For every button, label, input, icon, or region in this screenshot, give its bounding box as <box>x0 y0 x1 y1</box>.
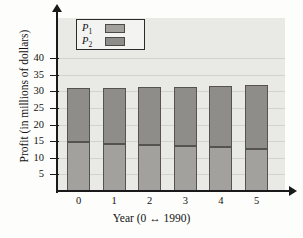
bar-group <box>174 18 197 191</box>
x-axis-title: Year (0 ↔ 1990) <box>0 212 303 224</box>
y-tick-mark <box>50 158 59 159</box>
bar-segment-p2 <box>138 87 161 144</box>
legend-label-p1: P1 <box>82 22 92 36</box>
bar-segment-p1 <box>138 145 161 191</box>
y-tick-mark <box>50 174 59 175</box>
legend-swatch-p2 <box>105 37 125 46</box>
legend-item-p1: P1 <box>82 23 142 34</box>
bar-group <box>245 18 268 191</box>
y-tick-mark <box>50 75 59 76</box>
y-tick-mark <box>50 108 59 109</box>
y-axis-title: Profit (in millions of dollars) <box>18 0 30 196</box>
x-tick-label: 0 <box>67 195 91 206</box>
bar-segment-p1 <box>245 149 268 191</box>
x-tick-label: 5 <box>245 195 269 206</box>
legend-swatch-p1 <box>105 24 125 33</box>
bar-group <box>209 18 232 191</box>
stacked-bar-chart: 510152025303540 012345 P1 P2 Year (0 ↔ 1… <box>0 0 303 238</box>
bar-segment-p1 <box>209 147 232 191</box>
bar-segment-p2 <box>245 85 268 148</box>
bar-segment-p1 <box>103 144 126 191</box>
bar-segment-p2 <box>67 88 90 142</box>
bar-segment-p1 <box>67 142 90 191</box>
legend-item-p2: P2 <box>82 36 142 47</box>
y-tick-mark <box>50 58 59 59</box>
bar-segment-p1 <box>174 146 197 191</box>
bar-segment-p2 <box>174 87 197 146</box>
legend-label-p2: P2 <box>82 35 92 49</box>
x-axis-arrow-icon <box>289 186 297 196</box>
x-tick-label: 3 <box>173 195 197 206</box>
bar-segment-p2 <box>103 88 126 144</box>
y-tick-mark <box>50 125 59 126</box>
x-axis-line <box>56 190 294 192</box>
x-tick-label: 4 <box>209 195 233 206</box>
bar-segment-p2 <box>209 86 232 147</box>
chart-legend: P1 P2 <box>76 19 145 50</box>
y-tick-mark <box>50 91 59 92</box>
y-axis-arrow-icon <box>52 4 62 12</box>
y-tick-mark <box>50 141 59 142</box>
x-tick-label: 2 <box>138 195 162 206</box>
x-tick-label: 1 <box>102 195 126 206</box>
y-axis-line <box>56 10 58 193</box>
